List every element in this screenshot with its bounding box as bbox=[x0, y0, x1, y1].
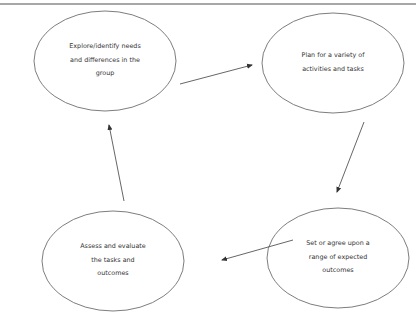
node-assess-label: Assess and evaluate the tasks and outcom… bbox=[63, 240, 163, 281]
node-set-outcomes-label: Set or agree upon a range of expected ou… bbox=[288, 237, 388, 278]
node-assess-line-2: the tasks and bbox=[63, 254, 163, 268]
cycle-diagram: Explore/identify needs and differences i… bbox=[0, 0, 416, 321]
node-explore-line-1: Explore/identify needs bbox=[55, 40, 155, 54]
node-set-outcomes-line-3: outcomes bbox=[288, 264, 388, 278]
arrow-plan-to-set-outcomes bbox=[337, 122, 364, 192]
node-explore-line-2: and differences in the bbox=[55, 54, 155, 68]
node-set-outcomes-line-1: Set or agree upon a bbox=[288, 237, 388, 251]
node-assess-line-3: outcomes bbox=[63, 267, 163, 281]
arrow-set-outcomes-to-assess bbox=[222, 240, 293, 260]
node-explore-line-3: group bbox=[55, 67, 155, 81]
node-explore-label: Explore/identify needs and differences i… bbox=[55, 40, 155, 81]
node-assess-line-1: Assess and evaluate bbox=[63, 240, 163, 254]
arrow-explore-to-plan bbox=[180, 65, 252, 84]
node-plan-line-1: Plan for a variety of bbox=[283, 49, 383, 63]
node-plan-line-2: activities and tasks bbox=[283, 63, 383, 77]
node-set-outcomes-line-2: range of expected bbox=[288, 251, 388, 265]
arrow-assess-to-explore bbox=[109, 125, 124, 201]
node-plan-label: Plan for a variety of activities and tas… bbox=[283, 49, 383, 76]
